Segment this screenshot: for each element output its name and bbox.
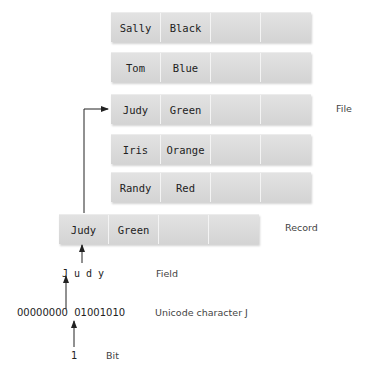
field-cell: Judy bbox=[59, 215, 109, 244]
file-record-judy: Judy Green bbox=[111, 94, 311, 124]
field-label: Field bbox=[156, 268, 178, 279]
field-value: J u d y bbox=[62, 268, 104, 279]
field-cell bbox=[211, 135, 261, 164]
field-cell: Green bbox=[161, 95, 211, 124]
character-label: Unicode character J bbox=[155, 307, 248, 318]
field-cell bbox=[261, 53, 311, 82]
file-record-iris: Iris Orange bbox=[111, 134, 311, 164]
file-record-randy: Randy Red bbox=[111, 172, 311, 202]
field-cell bbox=[159, 215, 209, 244]
field-cell: Orange bbox=[161, 135, 211, 164]
field-cell: Tom bbox=[111, 53, 161, 82]
field-cell bbox=[261, 135, 311, 164]
field-cell: Randy bbox=[111, 173, 161, 202]
file-record-tom: Tom Blue bbox=[111, 52, 311, 82]
character-bits: 00000000 01001010 bbox=[17, 307, 125, 318]
field-cell: Green bbox=[109, 215, 159, 244]
field-cell bbox=[211, 53, 261, 82]
field-cell: Black bbox=[161, 13, 211, 42]
field-cell bbox=[209, 215, 259, 244]
field-cell: Iris bbox=[111, 135, 161, 164]
field-cell bbox=[211, 13, 261, 42]
file-label: File bbox=[336, 103, 352, 114]
bit-label: Bit bbox=[106, 350, 119, 361]
record-label: Record bbox=[285, 222, 318, 233]
bit-value: 1 bbox=[71, 350, 77, 361]
field-cell bbox=[211, 173, 261, 202]
field-cell: Blue bbox=[161, 53, 211, 82]
field-cell: Judy bbox=[111, 95, 161, 124]
field-cell bbox=[211, 95, 261, 124]
file-record-sally: Sally Black bbox=[111, 12, 311, 42]
field-cell bbox=[261, 95, 311, 124]
field-cell bbox=[261, 13, 311, 42]
field-cell: Red bbox=[161, 173, 211, 202]
field-cell bbox=[261, 173, 311, 202]
field-cell: Sally bbox=[111, 13, 161, 42]
record-box: Judy Green bbox=[59, 214, 259, 244]
